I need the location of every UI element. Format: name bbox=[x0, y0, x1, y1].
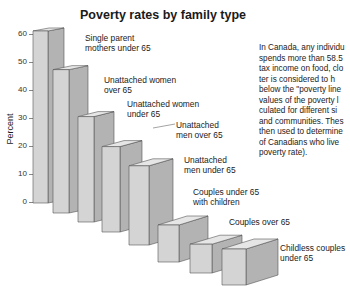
annotation-note: In Canada, any individu spends more than… bbox=[259, 43, 350, 159]
